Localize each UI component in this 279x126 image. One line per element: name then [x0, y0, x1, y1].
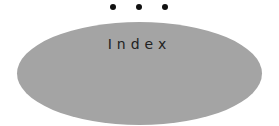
- ellipsis-dot-2: [136, 4, 142, 10]
- index-node: Index: [17, 22, 262, 125]
- ellipsis-dot-3: [162, 4, 168, 10]
- ellipsis-dot-1: [110, 4, 116, 10]
- index-node-label: Index: [17, 36, 262, 52]
